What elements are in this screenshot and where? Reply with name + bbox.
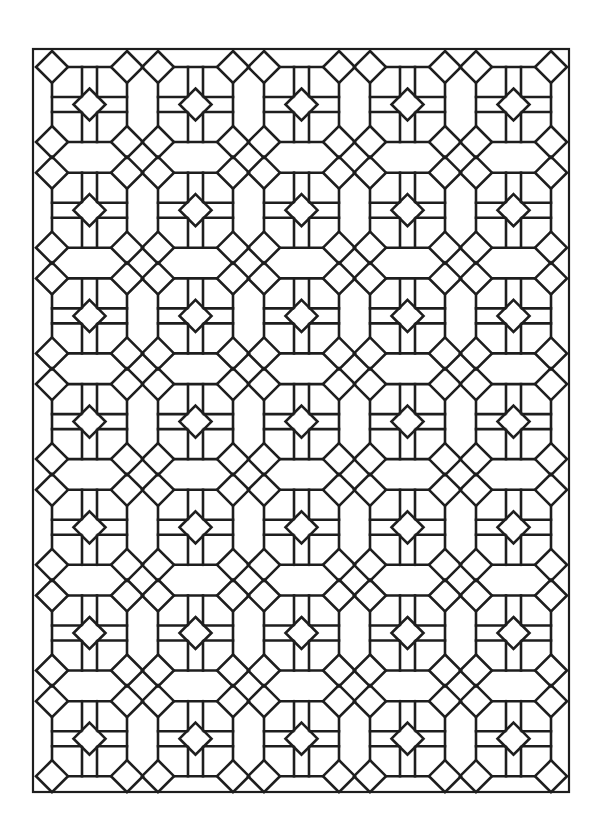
geometric-pattern xyxy=(0,0,605,828)
page-background xyxy=(0,0,605,828)
